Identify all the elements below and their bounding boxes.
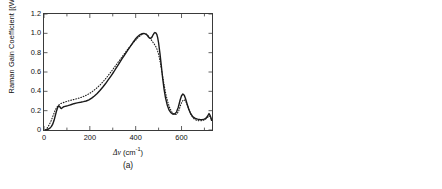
x-tick-label: 400 xyxy=(130,134,142,141)
x-axis-symbol-a: Δv xyxy=(113,148,121,157)
series-measured xyxy=(46,33,212,130)
series-calculated xyxy=(45,34,211,130)
y-tick-label: 0.6 xyxy=(31,68,41,75)
y-tick-label: 0.4 xyxy=(31,88,41,95)
panel-a: Raman Gain Coefficient [(W km)-1] 00.20.… xyxy=(0,0,221,189)
x-axis-unit-a: (cm xyxy=(123,148,136,157)
plot-area-a: 00.20.40.60.81.01.2 0200400600 Δv (cm-1)… xyxy=(43,13,213,131)
y-axis-title-text: Raman Gain Coefficient [(W km) xyxy=(7,0,16,94)
x-tick-label: 0 xyxy=(42,134,46,141)
panel-label-a: (a) xyxy=(123,160,133,170)
x-tick-label: 200 xyxy=(84,134,96,141)
x-axis-title-a: Δv (cm-1) xyxy=(113,146,143,157)
y-tick-label: 0 xyxy=(37,126,41,133)
x-axis-tail-a: ) xyxy=(141,148,144,157)
y-tick-label: 1.2 xyxy=(31,10,41,17)
y-axis-title: Raman Gain Coefficient [(W km)-1] xyxy=(6,0,16,100)
y-tick-label: 1.0 xyxy=(31,30,41,37)
y-tick-label: 0.8 xyxy=(31,49,41,56)
x-tick-label: 600 xyxy=(175,134,187,141)
panel-b: 00.20.40.60.811.2 0200400600 Δv (cm-1) (… xyxy=(221,0,442,189)
y-tick-label: 0.2 xyxy=(31,107,41,114)
curves-a xyxy=(44,14,212,130)
figure-raman-gain-spectra: Raman Gain Coefficient [(W km)-1] 00.20.… xyxy=(0,0,442,189)
plot-svg-a xyxy=(44,14,212,130)
